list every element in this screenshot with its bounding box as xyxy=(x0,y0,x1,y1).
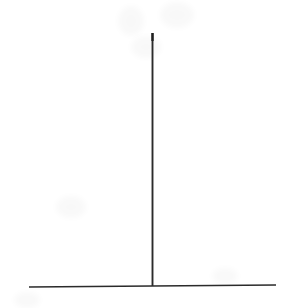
impulse-plot-svg xyxy=(0,0,303,308)
figure-canvas xyxy=(0,0,303,308)
